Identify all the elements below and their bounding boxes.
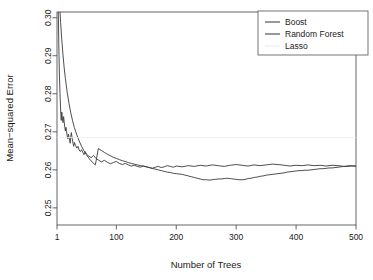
y-tick-label: 0.27 <box>43 123 53 140</box>
chart-legend: BoostRandom ForestLasso <box>258 11 368 55</box>
x-axis-title: Number of Trees <box>171 259 242 270</box>
legend-label-lasso: Lasso <box>285 41 308 51</box>
y-axis-title: Mean−squared Error <box>4 74 15 161</box>
y-tick-label: 0.28 <box>43 85 53 102</box>
legend-label-random-forest: Random Forest <box>285 29 344 39</box>
x-tick-label: 500 <box>349 232 363 242</box>
x-tick-label: 100 <box>109 232 123 242</box>
legend-label-boost: Boost <box>285 17 307 27</box>
x-tick-label: 200 <box>169 232 183 242</box>
y-tick-label: 0.29 <box>43 47 53 64</box>
y-tick-label: 0.26 <box>43 161 53 178</box>
chart-figure: 1100200300400500 0.250.260.270.280.290.3… <box>0 0 373 280</box>
mse-vs-trees-line-chart: 1100200300400500 0.250.260.270.280.290.3… <box>0 0 373 280</box>
x-tick-label: 400 <box>289 232 303 242</box>
y-tick-label: 0.25 <box>43 199 53 216</box>
y-tick-label: 0.30 <box>43 9 53 26</box>
x-tick-label: 300 <box>229 232 243 242</box>
x-tick-label: 1 <box>55 232 60 242</box>
